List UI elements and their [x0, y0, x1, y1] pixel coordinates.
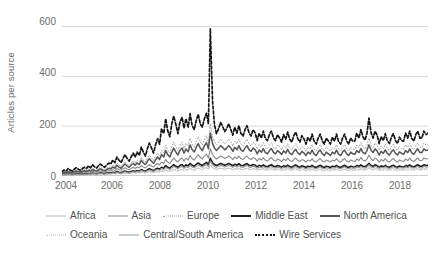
- legend-label-oceania: Oceania: [70, 229, 107, 240]
- legend-item-wire-services[interactable]: Wire Services: [255, 229, 341, 240]
- legend-swatch-north-america: [320, 212, 340, 220]
- chart-legend: Africa Asia Europe Middle East North Ame…: [46, 206, 440, 250]
- legend-label-europe: Europe: [187, 210, 219, 221]
- series-line-wire-services: [62, 29, 428, 172]
- legend-swatch-middle-east: [231, 212, 251, 220]
- y-tick-400: 400: [26, 67, 56, 78]
- y-axis-title-container: Articles per source: [0, 0, 20, 185]
- x-tick-2008: 2008: [149, 180, 171, 191]
- legend-swatch-wire-services: [255, 231, 275, 239]
- legend-item-africa[interactable]: Africa: [46, 210, 96, 221]
- y-tick-200: 200: [26, 119, 56, 130]
- legend-swatch-central-south-america: [119, 231, 139, 239]
- legend-label-central-south-america: Central/South America: [143, 229, 243, 240]
- legend-item-asia[interactable]: Asia: [108, 210, 151, 221]
- x-tick-2018: 2018: [389, 180, 411, 191]
- series-line-central-south-america: [62, 161, 428, 175]
- legend-label-asia: Asia: [132, 210, 151, 221]
- legend-row-1: Africa Asia Europe Middle East North Ame…: [46, 206, 440, 225]
- x-axis-ticks: 2004 2006 2008 2010 2012 2014 2016 2018: [0, 180, 440, 196]
- legend-label-middle-east: Middle East: [255, 210, 307, 221]
- legend-item-north-america[interactable]: North America: [320, 210, 407, 221]
- legend-swatch-europe: [163, 212, 183, 220]
- legend-label-africa: Africa: [70, 210, 96, 221]
- legend-swatch-oceania: [46, 231, 66, 239]
- legend-item-middle-east[interactable]: Middle East: [231, 210, 307, 221]
- legend-swatch-africa: [46, 212, 66, 220]
- legend-item-oceania[interactable]: Oceania: [46, 229, 107, 240]
- y-axis-title: Articles per source: [5, 52, 16, 133]
- legend-row-2: Oceania Central/South America Wire Servi…: [46, 225, 440, 244]
- x-tick-2014: 2014: [293, 180, 315, 191]
- legend-label-north-america: North America: [344, 210, 407, 221]
- x-tick-2006: 2006: [101, 180, 123, 191]
- chart-figure: Articles per source 600 400 200 0 2004 2…: [0, 0, 440, 253]
- x-tick-2004: 2004: [55, 180, 77, 191]
- series-lines: [62, 29, 428, 175]
- legend-label-wire-services: Wire Services: [279, 229, 341, 240]
- legend-swatch-asia: [108, 212, 128, 220]
- y-tick-600: 600: [26, 16, 56, 27]
- y-axis-ticks: 600 400 200 0: [24, 0, 56, 185]
- x-tick-2010: 2010: [197, 180, 219, 191]
- legend-item-europe[interactable]: Europe: [163, 210, 219, 221]
- x-tick-2016: 2016: [341, 180, 363, 191]
- plot-area: [62, 14, 428, 176]
- gridlines: [62, 26, 428, 126]
- legend-item-central-south-america[interactable]: Central/South America: [119, 229, 243, 240]
- x-tick-2012: 2012: [245, 180, 267, 191]
